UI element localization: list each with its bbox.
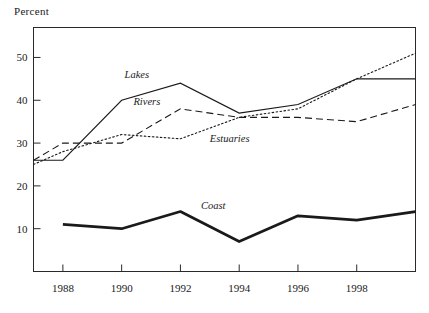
x-tick-label: 1996 xyxy=(287,282,310,294)
series-annotation-labels: LakesRiversEstuariesCoast xyxy=(124,69,250,211)
y-tick-label: 40 xyxy=(17,94,29,106)
y-tick-label: 50 xyxy=(17,51,29,63)
y-tick-label: 30 xyxy=(17,137,29,149)
series-label-rivers: Rivers xyxy=(132,96,160,107)
x-axis-ticks xyxy=(63,265,357,272)
y-axis-tick-labels: 1020304050 xyxy=(17,51,29,234)
y-tick-label: 20 xyxy=(17,180,29,192)
series-lines-group xyxy=(34,53,416,241)
x-tick-label: 1988 xyxy=(52,282,75,294)
x-tick-label: 1990 xyxy=(111,282,134,294)
series-line-coast xyxy=(63,212,416,242)
chart-container: Percent 1020304050 198819901992199419961… xyxy=(0,0,429,313)
y-axis-ticks xyxy=(34,57,41,228)
series-label-lakes: Lakes xyxy=(124,69,150,80)
x-tick-label: 1998 xyxy=(346,282,369,294)
x-axis-tick-labels: 198819901992199419961998 xyxy=(52,282,368,294)
series-line-lakes xyxy=(34,79,416,160)
x-tick-label: 1992 xyxy=(169,282,191,294)
y-tick-label: 10 xyxy=(17,223,29,235)
series-label-coast: Coast xyxy=(201,200,227,211)
series-line-estuaries xyxy=(34,53,416,164)
series-label-estuaries: Estuaries xyxy=(209,133,250,144)
line-chart-plot: 1020304050 198819901992199419961998 Lake… xyxy=(0,0,429,313)
x-tick-label: 1994 xyxy=(228,282,251,294)
